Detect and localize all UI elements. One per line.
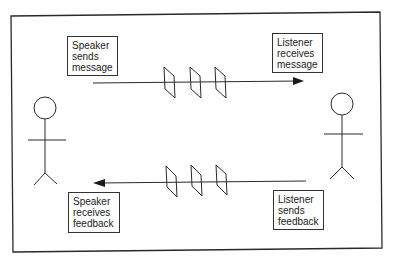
label-line: Listener — [278, 194, 320, 205]
barrier-icon — [216, 165, 227, 195]
speaker-figure-icon — [28, 97, 66, 185]
label-line: feedback — [73, 218, 116, 229]
label-line: Listener — [277, 37, 319, 48]
label-line: sends — [278, 205, 320, 216]
label-line: sends — [72, 51, 114, 62]
barrier-icon — [191, 165, 202, 196]
feedback-barriers — [166, 165, 227, 197]
arrowhead-left-icon — [93, 179, 105, 187]
feedback-arrow — [93, 179, 306, 187]
listener-figure-icon — [324, 93, 363, 179]
label-line: receives — [73, 207, 116, 218]
communication-diagram — [0, 0, 399, 262]
barrier-icon — [166, 166, 177, 197]
arrowhead-right-icon — [293, 77, 304, 85]
label-line: message — [72, 62, 114, 73]
label-speaker-sends-message: Speaker sends message — [67, 36, 118, 76]
label-line: Speaker — [72, 40, 114, 51]
label-listener-sends-feedback: Listener sends feedback — [273, 190, 324, 230]
label-listener-receives-message: Listener receives message — [272, 33, 323, 73]
label-line: feedback — [278, 216, 320, 227]
label-line: message — [277, 59, 319, 70]
barrier-icon — [215, 67, 226, 98]
message-arrow — [93, 77, 304, 85]
label-line: receives — [277, 48, 319, 59]
label-speaker-receives-feedback: Speaker receives feedback — [68, 192, 120, 233]
label-line: Speaker — [73, 196, 116, 207]
